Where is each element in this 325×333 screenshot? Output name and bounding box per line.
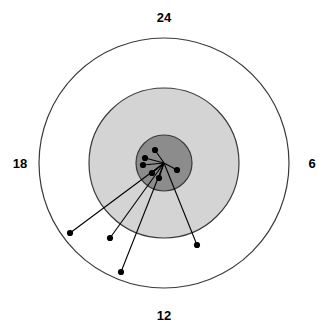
data-point bbox=[149, 170, 155, 176]
data-point bbox=[194, 242, 200, 248]
data-point bbox=[156, 175, 162, 181]
axis-label-left: 18 bbox=[13, 156, 27, 171]
data-point bbox=[107, 235, 113, 241]
axis-label-right: 6 bbox=[308, 156, 315, 171]
chart-svg: 24 6 12 18 bbox=[0, 0, 325, 333]
data-point bbox=[152, 147, 158, 153]
data-point bbox=[174, 167, 180, 173]
data-point bbox=[67, 230, 73, 236]
data-point bbox=[118, 269, 124, 275]
polar-target-chart: 24 6 12 18 bbox=[0, 0, 325, 333]
data-point bbox=[140, 162, 146, 168]
data-point bbox=[142, 155, 148, 161]
axis-label-bottom: 12 bbox=[157, 308, 171, 323]
axis-label-top: 24 bbox=[157, 10, 172, 25]
